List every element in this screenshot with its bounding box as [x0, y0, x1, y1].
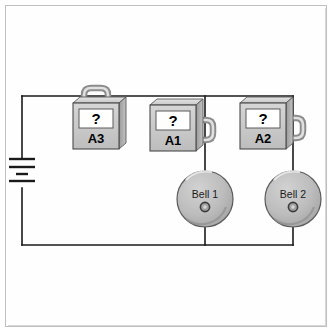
meter-A1-display-value: ? — [156, 112, 190, 129]
meter-A3-label: A3 — [73, 131, 119, 146]
bell-2-label: Bell 2 — [271, 188, 315, 200]
bell-1-label: Bell 1 — [183, 188, 227, 200]
meter-A1-label: A1 — [150, 133, 196, 148]
meter-A3-side-face — [119, 97, 126, 149]
meter-A2-label: A2 — [240, 131, 286, 146]
circuit-schematic — [0, 0, 334, 334]
battery-symbol — [9, 159, 35, 181]
bell-1-striker-inner — [203, 205, 206, 208]
circuit-diagram-canvas: ? A3 ? A1 ? A2 Bell 1 Bell 2 — [0, 0, 334, 334]
meter-A3-display-value: ? — [79, 110, 113, 127]
meter-A1-top-face — [150, 99, 203, 105]
meter-A2-display-value: ? — [246, 110, 280, 127]
meter-A2-side-face — [286, 97, 293, 149]
meter-A3-top-face — [73, 97, 126, 103]
meter-A2-top-face — [240, 97, 293, 103]
bell-2-striker-inner — [291, 205, 294, 208]
meter-A1-side-face — [196, 99, 203, 151]
